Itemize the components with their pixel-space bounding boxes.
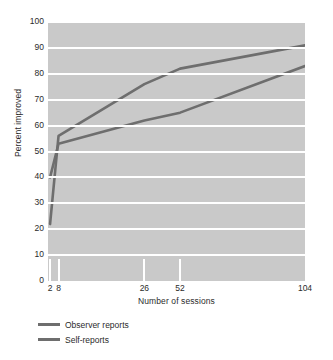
y-tick-label: 10: [20, 250, 44, 259]
line-series-self-reports: [50, 66, 305, 177]
y-tick-label: 30: [20, 198, 44, 207]
x-tick-mark: [58, 259, 60, 281]
x-tick-mark: [143, 259, 145, 281]
gridline: [48, 228, 305, 230]
legend-label: Self-reports: [65, 335, 109, 345]
x-tick-label: 8: [56, 283, 61, 293]
x-axis-tick-labels: 282652104: [48, 283, 305, 295]
y-axis-tick-labels: 0102030405060708090100: [18, 0, 44, 360]
gridline: [48, 47, 305, 49]
gridline: [48, 151, 305, 153]
chart-legend: Observer reports Self-reports: [38, 317, 278, 347]
x-axis-title: Number of sessions: [48, 296, 305, 306]
legend-line-icon: [38, 323, 60, 326]
y-tick-label: 20: [20, 224, 44, 233]
x-tick-label: 2: [48, 283, 53, 293]
x-tick-mark: [49, 259, 51, 281]
y-tick-label: 40: [20, 172, 44, 181]
y-tick-label: 80: [20, 69, 44, 78]
x-tick-label: 104: [298, 283, 312, 293]
x-tick-label: 26: [140, 283, 149, 293]
y-tick-label: 60: [20, 121, 44, 130]
legend-label: Observer reports: [65, 320, 129, 330]
chart-figure: Percent improved 0102030405060708090100 …: [0, 0, 333, 360]
legend-item-self-reports: Self-reports: [38, 332, 278, 347]
gridline: [48, 73, 305, 75]
y-tick-label: 0: [20, 276, 44, 285]
plot-area: [48, 22, 305, 281]
gridline: [48, 99, 305, 101]
gridline: [48, 202, 305, 204]
y-tick-label: 100: [20, 17, 44, 26]
legend-item-observer-reports: Observer reports: [38, 317, 278, 332]
x-tick-label: 52: [175, 283, 184, 293]
x-tick-mark: [179, 259, 181, 281]
x-axis-tick-marks: [48, 259, 305, 281]
gridline: [48, 176, 305, 178]
y-tick-label: 50: [20, 147, 44, 156]
gridline: [48, 22, 305, 23]
gridline: [48, 254, 305, 256]
y-tick-label: 90: [20, 43, 44, 52]
legend-line-icon: [38, 338, 60, 341]
y-tick-label: 70: [20, 95, 44, 104]
gridline: [48, 125, 305, 127]
